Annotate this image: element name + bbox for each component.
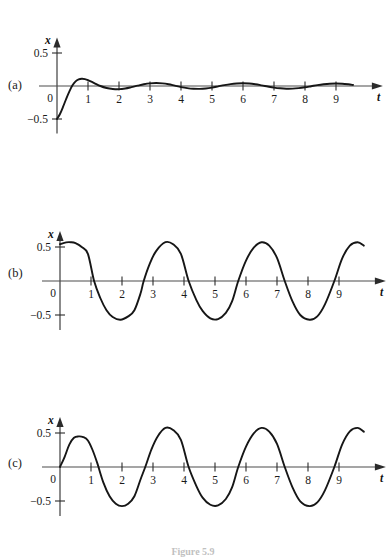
panel-c-plot: tx1234567890.50−0.5 [0, 372, 386, 558]
x-tick-label: 4 [181, 474, 187, 486]
y-axis-name: x [47, 414, 54, 426]
x-axis-name: t [377, 91, 381, 103]
y-tick-label-zero: 0 [50, 287, 56, 299]
x-tick-label: 6 [240, 93, 246, 105]
x-tick-label: 5 [209, 93, 215, 105]
panel-b-plot: tx1234567890.50−0.5 [0, 186, 386, 372]
y-axis-arrowhead [53, 37, 60, 47]
x-tick-label: 7 [274, 288, 280, 300]
x-tick-label: 5 [212, 474, 218, 486]
y-tick-label-upper: 0.5 [37, 241, 52, 253]
panel-a: (a) tx1234567890.50−0.5 [0, 0, 386, 186]
x-tick-label: 2 [119, 474, 125, 486]
y-axis-name: x [44, 34, 51, 46]
x-axis-arrowhead [375, 277, 386, 284]
panel-b: (b) tx1234567890.50−0.5 [0, 186, 386, 372]
x-axis-arrowhead [375, 463, 386, 470]
y-tick-label-lower: −0.5 [27, 113, 48, 125]
y-axis-arrowhead [56, 417, 63, 427]
x-tick-label: 3 [150, 288, 156, 300]
x-tick-label: 9 [333, 93, 339, 105]
x-tick-label: 1 [88, 288, 94, 300]
y-axis-name: x [47, 228, 54, 240]
x-tick-label: 8 [302, 93, 308, 105]
figure-root: (a) tx1234567890.50−0.5 (b) tx1234567890… [0, 0, 386, 559]
x-tick-label: 9 [336, 288, 342, 300]
x-tick-label: 7 [274, 474, 280, 486]
x-tick-label: 4 [178, 93, 184, 105]
x-tick-label: 2 [116, 93, 122, 105]
x-tick-label: 8 [305, 474, 311, 486]
panel-a-plot: tx1234567890.50−0.5 [0, 0, 386, 186]
x-tick-label: 3 [150, 474, 156, 486]
x-tick-label: 5 [212, 288, 218, 300]
x-axis-name: t [380, 286, 384, 298]
y-tick-label-upper: 0.5 [37, 427, 52, 439]
x-tick-label: 7 [271, 93, 277, 105]
panel-c: (c) tx1234567890.50−0.5 [0, 372, 386, 558]
y-tick-label-upper: 0.5 [34, 47, 49, 59]
x-tick-label: 9 [336, 474, 342, 486]
y-tick-label-zero: 0 [47, 92, 53, 104]
x-tick-label: 6 [243, 288, 249, 300]
x-tick-label: 6 [243, 474, 249, 486]
x-tick-label: 1 [85, 93, 91, 105]
curve-transient [57, 79, 353, 119]
y-tick-label-lower: −0.5 [30, 495, 51, 507]
x-axis-arrowhead [372, 82, 383, 89]
x-tick-label: 2 [119, 288, 125, 300]
x-tick-label: 3 [147, 93, 153, 105]
y-tick-label-lower: −0.5 [30, 309, 51, 321]
x-tick-label: 1 [88, 474, 94, 486]
x-axis-name: t [380, 472, 384, 484]
figure-caption: Figure 5.9 [0, 546, 386, 559]
x-tick-label: 4 [181, 288, 187, 300]
y-tick-label-zero: 0 [50, 473, 56, 485]
y-axis-arrowhead [56, 231, 63, 241]
x-tick-label: 8 [305, 288, 311, 300]
